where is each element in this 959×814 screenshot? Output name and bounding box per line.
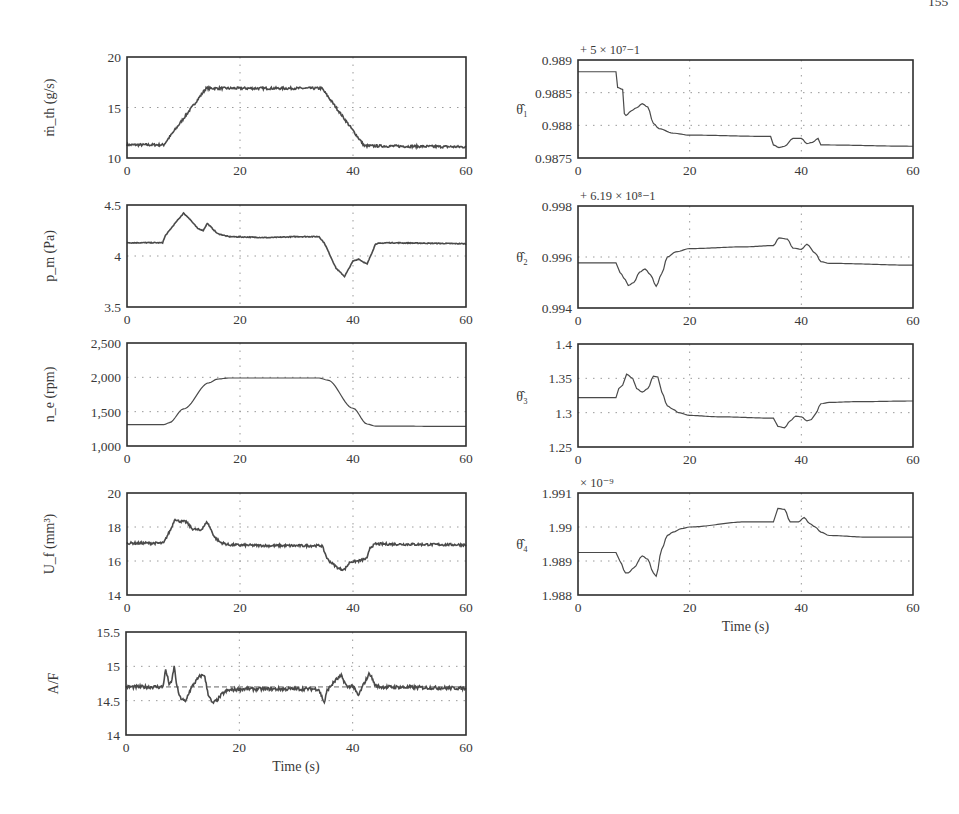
x-tick-label: 20 [683,600,697,615]
x-tick-label: 60 [459,163,473,178]
plot-frame [127,343,466,446]
y-tick-label: 18 [108,520,122,535]
axis-offset-note: + 6.19 × 10⁸−1 [580,189,656,203]
y-tick-label: 15.5 [96,625,120,640]
x-tick-label: 40 [795,313,809,328]
y-tick-label: 0.988 [542,118,573,133]
y-tick-label: 0.9885 [535,86,572,101]
x-tick-label: 40 [346,600,360,615]
x-tick-label: 20 [683,163,697,178]
y-tick-label: 14 [107,728,121,743]
x-tick-label: 40 [346,312,360,327]
panel-uf: 020406014161820U_f (mm³) [42,486,473,615]
x-tick-label: 20 [233,312,247,327]
plot-frame [578,206,913,308]
y-tick-label: 20 [108,50,122,65]
x-tick-label: 0 [123,740,130,755]
x-tick-label: 0 [124,312,131,327]
page-number-fragment: 155 [928,0,949,9]
y-tick-label: 14 [108,588,122,603]
x-tick-label: 0 [575,163,582,178]
x-tick-label: 20 [233,163,247,178]
y-tick-label: 1.35 [548,371,572,386]
y-axis-label: θ̂₃ [516,389,528,404]
x-tick-label: 0 [124,451,131,466]
x-axis-label: Time (s) [722,619,770,635]
x-tick-label: 0 [575,600,582,615]
series-line [127,519,466,570]
x-tick-label: 0 [124,600,131,615]
y-tick-label: 0.994 [542,301,573,316]
x-tick-label: 60 [906,600,920,615]
x-tick-label: 40 [346,163,360,178]
x-tick-label: 0 [575,452,582,467]
y-tick-label: 20 [108,486,122,501]
y-tick-label: 1,000 [91,439,122,454]
x-tick-label: 20 [233,740,247,755]
y-tick-label: 1.3 [555,406,572,421]
y-tick-label: 3.5 [104,300,121,315]
y-tick-label: 2,500 [91,336,122,351]
axis-offset-note: + 5 × 10⁷−1 [580,43,640,57]
x-tick-label: 40 [346,451,360,466]
y-axis-label: ṁ_th (g/s) [42,78,58,136]
x-axis-label: Time (s) [272,759,320,775]
y-axis-label: p_m (Pa) [42,230,58,282]
plot-frame [127,57,466,158]
x-tick-label: 60 [459,600,473,615]
series-line [578,508,913,576]
panel-theta1: 02040600.98750.9880.98850.989θ̂₁+ 5 × 10… [516,43,920,178]
plot-frame [127,493,466,595]
x-tick-label: 60 [459,312,473,327]
y-tick-label: 0.996 [542,250,573,265]
panel-theta2: 02040600.9940.9960.998θ̂₂+ 6.19 × 10⁸−1 [516,189,920,328]
x-tick-label: 40 [795,600,809,615]
y-tick-label: 1.988 [542,588,573,603]
x-tick-label: 40 [346,740,360,755]
x-tick-label: 0 [575,313,582,328]
y-tick-label: 1.99 [548,520,572,535]
y-tick-label: 0.998 [542,199,573,214]
y-tick-label: 15 [107,659,121,674]
x-tick-label: 40 [795,163,809,178]
plot-frame [578,344,913,447]
series-line [578,238,913,286]
y-tick-label: 0.989 [542,53,573,68]
y-axis-label: θ̂₄ [516,537,528,552]
panel-pm: 02040603.544.5p_m (Pa) [42,198,473,327]
y-axis-label: n_e (rpm) [42,366,58,422]
x-tick-label: 60 [906,163,920,178]
x-tick-label: 40 [795,452,809,467]
x-tick-label: 60 [459,451,473,466]
y-tick-label: 15 [108,101,122,116]
plot-frame [578,493,913,595]
x-tick-label: 20 [233,451,247,466]
y-tick-label: 16 [108,554,122,569]
series-line [127,213,466,277]
y-tick-label: 10 [108,151,122,166]
y-tick-label: 14.5 [96,694,120,709]
y-axis-label: A/F [46,672,61,694]
y-tick-label: 1.991 [542,486,572,501]
y-tick-label: 1.989 [542,554,573,569]
y-axis-label: θ̂₂ [516,250,528,265]
x-tick-label: 60 [906,313,920,328]
panel-ne: 02040601,0001,5002,0002,500n_e (rpm) [42,336,473,466]
y-tick-label: 1.25 [548,440,572,455]
plot-frame [578,60,913,158]
panel-theta4: 02040601.9881.9891.991.991θ̂₄× 10⁻⁹Time … [516,476,920,635]
y-tick-label: 2,000 [91,370,122,385]
y-tick-label: 4.5 [104,198,121,213]
axis-offset-note: × 10⁻⁹ [580,476,614,490]
series-line [127,87,466,148]
x-tick-label: 20 [683,452,697,467]
figure: 155 0204060101520ṁ_th (g/s) 02040603.544… [0,0,959,814]
y-tick-label: 0.9875 [535,151,572,166]
series-line [126,666,466,703]
x-tick-label: 60 [459,740,473,755]
panel-theta3: 02040601.251.31.351.4θ̂₃ [516,337,920,467]
series-line [578,72,913,148]
series-line [578,374,913,428]
y-axis-label: U_f (mm³) [42,513,58,574]
panel-mth: 0204060101520ṁ_th (g/s) [42,50,473,178]
